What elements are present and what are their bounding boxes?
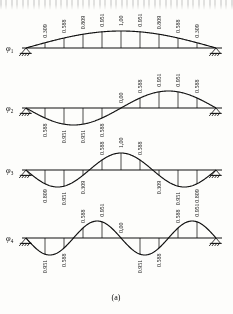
ordinate-value-label: 1,00 (118, 138, 124, 148)
ordinate-value-label: 0.951 (175, 192, 181, 205)
ordinate-value-label: 0,00 (118, 223, 124, 233)
ordinate-value-label: 0.309 (42, 24, 48, 37)
ordinate-value-label: 0.809 (80, 16, 86, 29)
ordinate-value-label: 0.588 (61, 20, 67, 33)
figure-root: 0.3090.5880.8090.9511,000.9510.8090.5880… (0, 0, 233, 314)
mode-panel-2: 0.5880.9510.9510.5880,000.5880.9510.9510… (6, 73, 222, 143)
ordinate-value-label: 0.588 (175, 20, 181, 33)
ordinate-value-label: 0.309 (194, 24, 200, 37)
ordinate-value-label: 0.309 (156, 181, 162, 194)
ordinate-value-label: 0.588 (137, 142, 143, 155)
ordinate-value-label: 0.951 (156, 73, 162, 86)
ordinate-value-label: 0.588 (80, 210, 86, 223)
ordinate-value-label: 0.588 (99, 142, 105, 155)
mode-panel-4: 0.9510.5880.5880.9510,000.9510.5880.5880… (6, 203, 222, 273)
figure-caption: (a) (112, 293, 121, 302)
ordinate-value-label: 0.951 (175, 73, 181, 86)
ordinate-value-label: 0.951 (137, 260, 143, 273)
mode-panel-3: 0.8090.9510.3090.5881,000.5880.3090.9510… (6, 138, 222, 206)
ordinate-value-label: 0.951 (137, 13, 143, 26)
ordinate-value-label: 0.951 (61, 192, 67, 205)
ordinate-value-label: 0.809 (194, 189, 200, 202)
ordinate-value-label: 0.309 (80, 181, 86, 194)
ordinate-value-label: 0.588 (99, 124, 105, 137)
ordinate-value-label: 0.588 (156, 254, 162, 267)
ordinate-value-label: 0.588 (137, 80, 143, 93)
ordinate-value-label: 0.588 (61, 254, 67, 267)
ordinate-value-label: 0.951 (61, 130, 67, 143)
ordinate-value-label: 0,00 (118, 93, 124, 103)
ordinate-value-label: 0.951 (80, 130, 86, 143)
mode-symbol-label: φ2 (6, 104, 14, 114)
mode-symbol-label: φ3 (6, 166, 14, 176)
ordinate-value-label: 0.809 (156, 16, 162, 29)
ordinate-value-label: 0.588 (194, 80, 200, 93)
mode-symbol-label: φ4 (6, 234, 14, 244)
ordinate-value-label: 0.588 (175, 210, 181, 223)
mode-shapes-diagram: 0.3090.5880.8090.9511,000.9510.8090.5880… (0, 0, 233, 314)
ordinate-value-label: 0.588 (42, 124, 48, 137)
ordinate-value-label: 1,00 (118, 16, 124, 26)
mode-panel-1: 0.3090.5880.8090.9511,000.9510.8090.5880… (6, 13, 222, 56)
ordinate-value-label: 0.951 (99, 13, 105, 26)
ordinate-value-label: 0.809 (42, 189, 48, 202)
mode-symbol-label: φ1 (6, 44, 14, 54)
ordinate-value-label: 0.951 (42, 260, 48, 273)
ordinate-value-label: 0.951 (194, 203, 200, 216)
ordinate-value-label: 0.951 (99, 203, 105, 216)
